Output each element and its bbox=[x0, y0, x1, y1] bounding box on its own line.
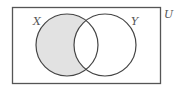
venn-diagram: X Y U bbox=[0, 0, 179, 87]
set-x-label: X bbox=[32, 15, 42, 28]
set-y-label: Y bbox=[131, 15, 140, 28]
universe-label: U bbox=[164, 8, 174, 21]
